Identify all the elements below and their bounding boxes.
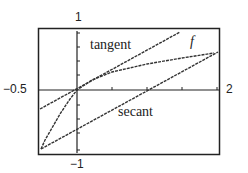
y-max-label: 1 [75, 10, 82, 24]
series-secant [41, 52, 218, 149]
x-min-label: −0.5 [3, 82, 27, 96]
tangent-annotation: tangent [90, 37, 131, 53]
chart-plot [0, 0, 248, 173]
x-max-label: 2 [226, 82, 233, 96]
f-annotation: f [190, 34, 194, 50]
y-min-label: −1 [70, 157, 84, 171]
secant-annotation: secant [118, 104, 153, 120]
